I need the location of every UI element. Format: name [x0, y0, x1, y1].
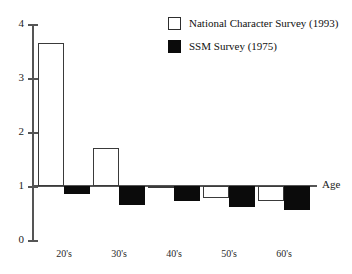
y-tick-label-0: 0: [6, 234, 24, 245]
bar-20-s-national-character-survey-1993: [38, 43, 64, 186]
x-label-20s: 20's: [56, 248, 72, 260]
x-label-50s: 50's: [221, 248, 237, 260]
legend-entry-ssm-survey: SSM Survey (1975): [168, 40, 338, 53]
bar-20-s-ssm-survey-1975: [64, 186, 90, 194]
y-tick-label-3: 3: [6, 72, 24, 83]
bar-60-s-national-character-survey-1993: [258, 186, 284, 201]
y-tick-label-2: 2: [6, 126, 24, 137]
bar-50-s-national-character-survey-1993: [203, 186, 229, 198]
x-label-30s: 30's: [111, 248, 127, 260]
x-axis-title: Age: [322, 178, 340, 190]
x-label-40s: 40's: [166, 248, 182, 260]
bar-40-s-ssm-survey-1975: [174, 186, 200, 201]
legend-swatch-open-icon: [168, 17, 181, 30]
y-tick-label-1: 1: [6, 180, 24, 191]
bar-chart: 0 1 2 3 4 20's 30's 40's 50's 60's Age: [0, 0, 352, 274]
bar-30-s-ssm-survey-1975: [119, 186, 145, 205]
y-tick-label-4: 4: [6, 18, 24, 29]
bar-60-s-ssm-survey-1975: [284, 186, 310, 210]
bar-30-s-national-character-survey-1993: [93, 148, 119, 186]
plot-area: 0 1 2 3 4 20's 30's 40's 50's 60's Age: [0, 0, 352, 274]
y-tick-mark-4: [28, 24, 38, 26]
legend-entry-national-character-survey: National Character Survey (1993): [168, 17, 338, 30]
y-tick-mark-2: [28, 132, 38, 134]
legend: National Character Survey (1993) SSM Sur…: [168, 17, 338, 63]
x-label-60s: 60's: [276, 248, 292, 260]
y-tick-mark-0: [28, 240, 38, 242]
legend-label-0: National Character Survey (1993): [189, 17, 338, 30]
y-tick-mark-3: [28, 78, 38, 80]
legend-swatch-filled-icon: [168, 40, 181, 53]
bar-50-s-ssm-survey-1975: [229, 186, 255, 207]
bar-40-s-national-character-survey-1993: [148, 186, 174, 188]
legend-label-1: SSM Survey (1975): [189, 40, 277, 53]
